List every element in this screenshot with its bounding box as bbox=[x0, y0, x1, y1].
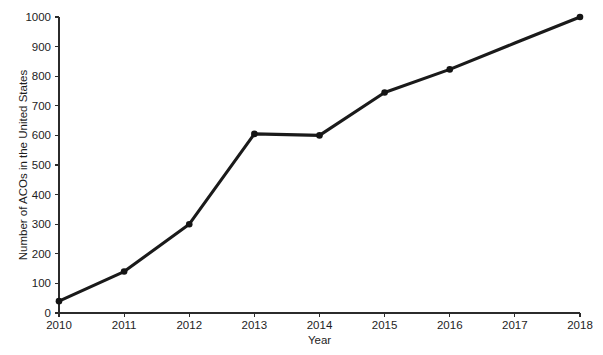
y-tick-label: 500 bbox=[32, 159, 51, 171]
x-tick-label: 2014 bbox=[307, 319, 333, 331]
x-tick-label: 2015 bbox=[372, 319, 398, 331]
y-tick-label: 100 bbox=[32, 277, 51, 289]
line-chart-aco-growth: 01002003004005006007008009001000 2010201… bbox=[0, 0, 603, 355]
x-tick-label: 2018 bbox=[567, 319, 593, 331]
y-tick-label: 200 bbox=[32, 248, 51, 260]
y-tick-label: 600 bbox=[32, 129, 51, 141]
x-tick-label: 2010 bbox=[46, 319, 72, 331]
x-tick-label: 2017 bbox=[502, 319, 528, 331]
y-tick-label: 400 bbox=[32, 189, 51, 201]
x-axis-title: Year bbox=[308, 334, 331, 346]
y-tick-label: 900 bbox=[32, 41, 51, 53]
data-point-marker bbox=[381, 89, 388, 96]
y-tick-label: 800 bbox=[32, 70, 51, 82]
data-point-marker bbox=[186, 221, 193, 228]
data-point-marker bbox=[577, 14, 584, 21]
y-tick-label: 0 bbox=[45, 307, 51, 319]
y-axis-title: Number of ACOs in the United States bbox=[17, 70, 29, 261]
x-tick-label: 2013 bbox=[242, 319, 268, 331]
data-point-marker bbox=[121, 268, 128, 275]
x-tick-label: 2016 bbox=[437, 319, 463, 331]
data-point-marker bbox=[446, 66, 453, 73]
chart-background bbox=[0, 0, 603, 355]
data-point-marker bbox=[251, 131, 258, 138]
data-point-marker bbox=[56, 298, 63, 305]
y-tick-label: 1000 bbox=[25, 11, 51, 23]
x-tick-label: 2011 bbox=[112, 319, 137, 331]
x-tick-label: 2012 bbox=[176, 319, 202, 331]
y-tick-label: 300 bbox=[32, 218, 51, 230]
chart-figure: 01002003004005006007008009001000 2010201… bbox=[0, 0, 603, 355]
data-point-marker bbox=[316, 132, 323, 139]
y-tick-label: 700 bbox=[32, 100, 51, 112]
